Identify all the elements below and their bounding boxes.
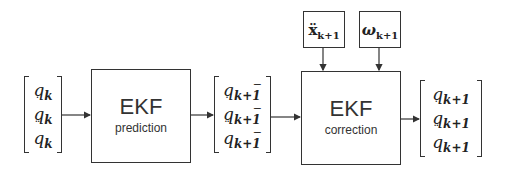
q-ddot-k-plus-1: qk+1 <box>420 134 482 154</box>
q-prior: qk+1− <box>214 82 271 102</box>
state-vector-k-plus-1: qk+1 qk+1 qk+1 <box>420 80 482 157</box>
ekf-correction-block: EKF correction <box>301 71 401 165</box>
q-dot-k-plus-1: qk+1 <box>420 110 482 130</box>
correction-title: EKF <box>302 96 400 122</box>
q-ddot-k: qk <box>24 130 62 150</box>
q-k-plus-1: qk+1 <box>420 86 482 106</box>
ekf-prediction-block: EKF prediction <box>91 69 191 163</box>
accel-input-box: ẍk+1 <box>303 11 345 48</box>
accel-label: ẍk+1 <box>304 21 344 41</box>
prediction-subtitle: prediction <box>92 121 190 135</box>
q-dot-prior: qk+1− <box>214 106 271 126</box>
prediction-title: EKF <box>92 94 190 120</box>
q-dot-k: qk <box>24 106 62 126</box>
omega-input-box: ωk+1 <box>359 11 401 48</box>
state-vector-k: qk qk qk <box>24 76 62 153</box>
q-k: qk <box>24 82 62 102</box>
correction-subtitle: correction <box>302 123 400 137</box>
state-vector-prior: qk+1− qk+1− qk+1− <box>214 76 271 153</box>
omega-label: ωk+1 <box>360 21 400 41</box>
q-ddot-prior: qk+1− <box>214 130 271 150</box>
